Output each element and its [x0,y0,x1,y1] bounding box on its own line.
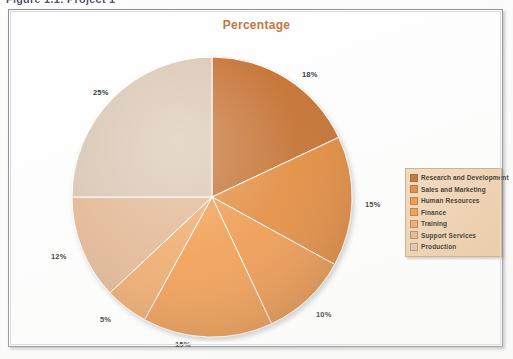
figure-caption: Figure 1.1: Project 1 [6,0,115,5]
legend-item-label: Sales and Marketing [421,185,486,194]
legend-swatch-icon [410,231,418,239]
legend-item[interactable]: Production [410,242,498,251]
data-label-human-resources: 10% [316,310,332,319]
legend-swatch-icon [410,185,418,193]
chart-area: Percentage 18% 15% 10% [9,10,504,348]
chart-legend: Research and Development Sales and Marke… [405,168,502,257]
legend-swatch-icon [410,208,418,216]
legend-item-label: Production [421,242,456,251]
legend-swatch-icon [410,197,418,205]
data-label-production: 25% [93,88,109,97]
legend-item[interactable]: Research and Development [410,173,498,182]
legend-item-label: Training [421,219,447,228]
figure-frame: Percentage 18% 15% 10% [8,9,503,347]
legend-item[interactable]: Sales and Marketing [410,185,498,194]
pie-slices [72,57,352,337]
data-label-research-and-development: 18% [302,70,318,79]
legend-item[interactable]: Human Resources [410,196,498,205]
legend-item[interactable]: Finance [410,208,498,217]
legend-item-label: Research and Development [421,173,509,182]
data-label-sales-and-marketing: 15% [365,200,381,209]
pie-slice[interactable] [72,57,212,197]
data-label-support-services: 12% [51,252,67,261]
chart-title: Percentage [9,18,504,32]
legend-swatch-icon [410,174,418,182]
legend-swatch-icon [410,243,418,251]
legend-item-label: Support Services [421,231,476,240]
legend-item[interactable]: Support Services [410,231,498,240]
data-label-training: 5% [100,315,111,324]
legend-item-label: Human Resources [421,196,480,205]
legend-item-label: Finance [421,208,446,217]
legend-swatch-icon [410,220,418,228]
pie-chart: 18% 15% 10% 15% 5% 12% 25% [62,52,362,342]
data-label-finance: 15% [175,340,191,349]
legend-item[interactable]: Training [410,219,498,228]
